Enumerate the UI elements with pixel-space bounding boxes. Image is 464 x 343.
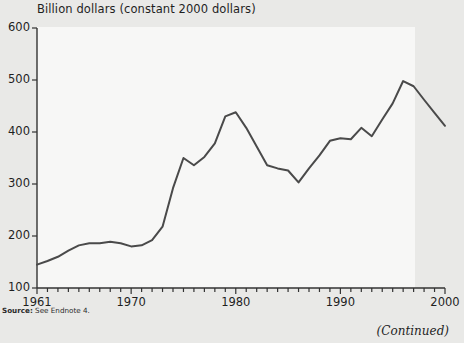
y-tick-label-300: 300 [0,176,30,190]
y-tick-marks [32,28,37,288]
y-tick-label-100: 100 [0,280,30,294]
continued-note: (Continued) [377,324,449,338]
data-series-group [37,81,445,265]
x-tick-label-1970: 1970 [109,295,153,309]
source-text: See Endnote 4. [35,306,90,315]
y-tick-label-200: 200 [0,228,30,242]
axes [37,28,445,288]
x-tick-label-2000: 2000 [423,295,464,309]
source-note: Source: See Endnote 4. [2,306,90,315]
x-tick-label-1990: 1990 [318,295,362,309]
y-tick-label-600: 600 [0,20,30,34]
y-tick-label-400: 400 [0,124,30,138]
x-tick-marks [37,288,445,294]
x-tick-label-1980: 1980 [214,295,258,309]
source-label: Source: [2,306,33,315]
y-tick-label-500: 500 [0,72,30,86]
data-line [37,81,445,265]
